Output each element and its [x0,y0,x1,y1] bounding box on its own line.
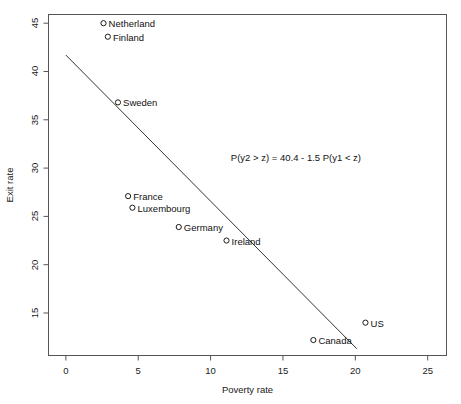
data-point-label: Finland [113,31,144,42]
data-point-label: Sweden [123,97,157,108]
regression-line [66,55,357,349]
data-point-marker [176,224,181,229]
scatter-plot-figure: Poverty rate Exit rate P(y2 > z) = 40.4 … [0,0,461,404]
y-axis-title: Exit rate [3,168,14,203]
data-point-label: Luxembourg [138,202,191,213]
data-point-label: US [371,317,384,328]
y-tick-label: 20 [28,256,39,274]
data-point-label: France [133,191,163,202]
y-tick-label: 25 [28,207,39,225]
y-tick-label: 35 [28,111,39,129]
y-tick-label: 30 [28,159,39,177]
data-point-marker [115,100,120,105]
data-point-marker [224,238,229,243]
y-tick-label: 40 [28,62,39,80]
x-tick-label: 15 [278,365,289,376]
data-point-marker [101,21,106,26]
x-tick-label: 5 [136,365,141,376]
plot-canvas [0,0,461,404]
data-point-marker [126,194,131,199]
x-tick-label: 0 [63,365,68,376]
data-point-marker [363,320,368,325]
data-point-marker [130,205,135,210]
data-point-label: Ireland [232,235,261,246]
data-point-marker [105,34,110,39]
x-tick-label: 20 [350,365,361,376]
x-tick-label: 25 [422,365,433,376]
y-tick-label: 45 [28,14,39,32]
x-tick-label: 10 [205,365,216,376]
data-point-label: Germany [184,222,223,233]
data-point-label: Canada [318,335,351,346]
plot-frame [49,15,447,356]
data-point-label: Netherland [109,18,155,29]
y-tick-label: 15 [28,304,39,322]
regression-equation-annotation: P(y2 > z) = 40.4 - 1.5 P(y1 < z) [231,152,361,163]
data-point-marker [311,337,316,342]
x-axis-title: Poverty rate [222,384,273,395]
